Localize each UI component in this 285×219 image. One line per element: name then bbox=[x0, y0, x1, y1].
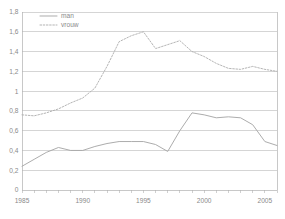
y-tick-label-6: 1,2 bbox=[9, 68, 18, 75]
x-axis-ticks-group bbox=[22, 190, 277, 193]
series-line-man bbox=[22, 113, 277, 166]
y-tick-label-9: 1,8 bbox=[9, 8, 18, 15]
y-tick-labels-group: 00,20,40,60,811,21,41,61,8 bbox=[9, 8, 19, 193]
legend-label-man: man bbox=[61, 12, 74, 19]
gridlines-group bbox=[22, 12, 277, 170]
y-tick-label-1: 0,2 bbox=[9, 167, 18, 174]
x-tick-label-3: 2000 bbox=[197, 197, 212, 204]
legend-group: manvrouw bbox=[40, 12, 79, 28]
y-tick-label-2: 0,4 bbox=[9, 147, 18, 154]
x-tick-label-4: 2005 bbox=[258, 197, 273, 204]
line-chart: 00,20,40,60,811,21,41,61,8 1985199019952… bbox=[0, 0, 285, 219]
axis-lines-group bbox=[22, 12, 277, 190]
x-tick-label-0: 1985 bbox=[15, 197, 30, 204]
x-tick-labels-group: 19851990199520002005 bbox=[15, 197, 273, 204]
x-tick-label-2: 1995 bbox=[136, 197, 151, 204]
chart-canvas: 00,20,40,60,811,21,41,61,8 1985199019952… bbox=[0, 0, 285, 219]
series-line-vrouw bbox=[22, 32, 277, 116]
y-tick-label-5: 1 bbox=[15, 88, 19, 95]
legend-label-vrouw: vrouw bbox=[61, 21, 79, 28]
y-tick-label-0: 0 bbox=[15, 186, 19, 193]
x-tick-label-1: 1990 bbox=[75, 197, 90, 204]
series-group bbox=[22, 32, 277, 166]
y-tick-label-8: 1,6 bbox=[9, 28, 18, 35]
y-tick-label-4: 0,8 bbox=[9, 107, 18, 114]
y-tick-label-7: 1,4 bbox=[9, 48, 18, 55]
y-tick-label-3: 0,6 bbox=[9, 127, 18, 134]
